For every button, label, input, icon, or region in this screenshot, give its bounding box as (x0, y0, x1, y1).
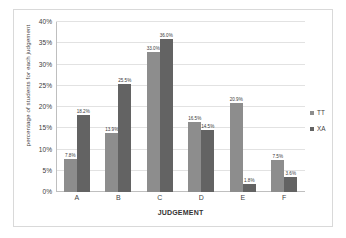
y-axis-tick-label: 5% (42, 166, 52, 173)
y-axis-title: percentage of students for each judgemen… (24, 11, 31, 161)
bar[interactable]: 13.9% (105, 133, 118, 192)
x-axis-category-label: E (222, 194, 264, 201)
chart-frame: percentage of students for each judgemen… (13, 9, 333, 227)
bar[interactable]: 18.2% (77, 115, 90, 192)
y-axis-tick-label: 0% (42, 188, 52, 195)
bar[interactable]: 7.5% (271, 160, 284, 192)
legend-label: TT (317, 109, 325, 116)
bar-value-label: 7.8% (65, 153, 75, 158)
x-axis-category-label: D (181, 194, 223, 201)
bar-value-label: 1.8% (244, 178, 254, 183)
bar[interactable]: 14.5% (201, 130, 214, 192)
bar-group: 33.0%36.0% (147, 22, 173, 192)
y-axis-tick-label: 20% (39, 103, 52, 110)
y-axis-tick-label: 40% (39, 18, 52, 25)
bar[interactable]: 7.8% (64, 159, 77, 192)
y-axis-tick-label: 35% (39, 39, 52, 46)
x-axis-title: JUDGEMENT (56, 209, 305, 216)
y-axis-tick-label: 15% (39, 124, 52, 131)
bar-value-label: 16.5% (188, 116, 201, 121)
bar[interactable]: 20.9% (230, 103, 243, 192)
y-axis-tick-label: 10% (39, 145, 52, 152)
legend-item[interactable]: XA (310, 125, 326, 132)
x-axis-category-label: C (139, 194, 181, 201)
bar-value-label: 14.5% (201, 124, 214, 129)
bar-group: 16.5%14.5% (188, 22, 214, 192)
bar-value-label: 33.0% (147, 46, 160, 51)
legend-label: XA (317, 125, 326, 132)
x-axis-category-label: B (98, 194, 140, 201)
bar-value-label: 36.0% (160, 33, 173, 38)
bar-groups: 7.8%18.2%13.9%25.5%33.0%36.0%16.5%14.5%2… (56, 22, 305, 192)
x-axis-category-label: A (56, 194, 98, 201)
bar[interactable]: 36.0% (160, 39, 173, 192)
bar-value-label: 3.6% (286, 171, 296, 176)
bar[interactable]: 16.5% (188, 122, 201, 192)
legend-swatch-icon (310, 127, 314, 131)
legend-swatch-icon (310, 111, 314, 115)
bar-group: 7.5%3.6% (271, 22, 297, 192)
x-axis-tick-labels: ABCDEF (56, 194, 305, 201)
bar-value-label: 7.5% (273, 154, 283, 159)
legend-item[interactable]: TT (310, 109, 326, 116)
x-axis-category-label: F (264, 194, 306, 201)
bar[interactable]: 33.0% (147, 52, 160, 192)
y-axis-tick-label: 30% (39, 60, 52, 67)
bar-value-label: 20.9% (230, 97, 243, 102)
legend: TTXA (310, 109, 326, 132)
bar-group: 20.9%1.8% (230, 22, 256, 192)
y-axis-tick-label: 25% (39, 81, 52, 88)
bar[interactable]: 25.5% (118, 84, 131, 192)
bar-group: 7.8%18.2% (64, 22, 90, 192)
bar[interactable]: 1.8% (243, 184, 256, 192)
bar-group: 13.9%25.5% (105, 22, 131, 192)
bar-value-label: 13.9% (105, 127, 118, 132)
plot-area: 0%5%10%15%20%25%30%35%40% 7.8%18.2%13.9%… (56, 22, 305, 192)
bar-value-label: 18.2% (77, 109, 90, 114)
bar[interactable]: 3.6% (284, 177, 297, 192)
bar-value-label: 25.5% (118, 78, 131, 83)
